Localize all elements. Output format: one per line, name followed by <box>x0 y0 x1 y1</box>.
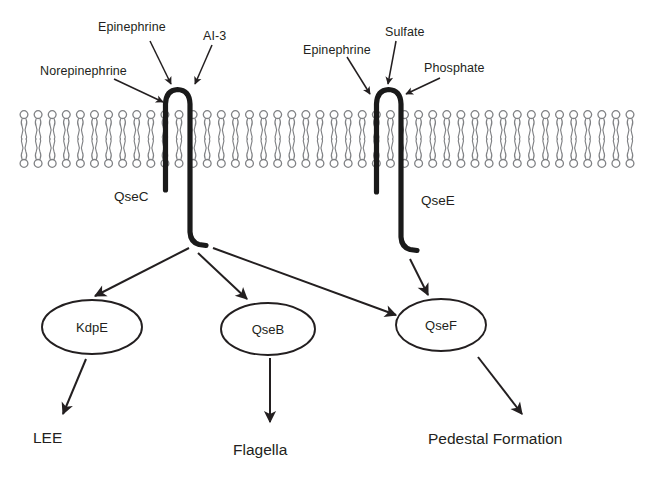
lipid-head-outer <box>274 111 282 140</box>
arrow-kdpe-to-lee <box>63 359 86 414</box>
lipid-head-inner <box>302 139 310 168</box>
lipid-head-inner <box>105 139 113 168</box>
lipid-head-inner <box>133 139 141 168</box>
output-label-lee: LEE <box>33 430 62 446</box>
lipid-head-inner <box>231 139 239 168</box>
output-label-flagella: Flagella <box>233 442 287 458</box>
ligand-label-norepinephrine: Norepinephrine <box>40 65 127 78</box>
lipid-head-outer <box>133 111 141 140</box>
lipid-head-outer <box>584 111 592 140</box>
lipid-head-inner <box>570 139 578 168</box>
lipid-head-inner <box>457 139 465 168</box>
lipid-head-outer <box>203 111 211 140</box>
lipid-head-inner <box>429 139 437 168</box>
lipid-head-inner <box>499 139 507 168</box>
lipid-head-outer <box>344 111 352 140</box>
node-label-kdpe: KdpE <box>42 321 142 334</box>
lipid-head-inner <box>91 139 99 168</box>
arrow-phosphate-to-qsee <box>406 78 440 94</box>
lipid-head-inner <box>387 139 395 168</box>
phospholipid-bilayer <box>20 111 634 168</box>
receptor-label-qsee: QseE <box>421 194 455 208</box>
lipid-head-inner <box>513 139 521 168</box>
lipid-head-outer <box>316 111 324 140</box>
lipid-head-inner <box>358 139 366 168</box>
figure-canvas: Norepinephrine Epinephrine AI-3 Epinephr… <box>0 0 650 479</box>
lipid-head-outer <box>513 111 521 140</box>
lipid-head-outer <box>358 111 366 140</box>
lipid-head-inner <box>542 139 550 168</box>
lipid-head-inner <box>34 139 42 168</box>
lipid-head-outer <box>302 111 310 140</box>
lipid-head-inner <box>415 139 423 168</box>
arrow-qsec-to-kdpe <box>95 248 189 296</box>
ligand-label-epinephrine-left: Epinephrine <box>98 21 166 34</box>
lipid-head-inner <box>485 139 493 168</box>
lipid-head-inner <box>48 139 56 168</box>
lipid-head-outer <box>626 111 634 140</box>
lipid-head-outer <box>260 111 268 140</box>
lipid-head-outer <box>598 111 606 140</box>
lipid-head-outer <box>570 111 578 140</box>
arrow-epinephrine-to-qsee <box>347 57 370 94</box>
lipid-head-inner <box>217 139 225 168</box>
lipid-head-inner <box>527 139 535 168</box>
receptor-qsee <box>377 90 418 251</box>
arrow-norepinephrine-to-qsec <box>114 79 163 102</box>
receptor-qsec <box>166 90 207 246</box>
lipid-head-inner <box>260 139 268 168</box>
ligand-label-ai-3: AI-3 <box>203 30 226 43</box>
lipid-head-inner <box>288 139 296 168</box>
lipid-head-inner <box>330 139 338 168</box>
arrow-qsee-to-qsef <box>410 259 428 295</box>
lipid-head-inner <box>246 139 254 168</box>
lipid-head-outer <box>175 111 183 140</box>
lipid-head-inner <box>316 139 324 168</box>
lipid-head-inner <box>626 139 634 168</box>
lipid-head-outer <box>499 111 507 140</box>
lipid-head-outer <box>387 111 395 140</box>
lipid-head-outer <box>457 111 465 140</box>
lipid-head-outer <box>76 111 84 140</box>
lipid-head-outer <box>246 111 254 140</box>
receptor-label-qsec: QseC <box>114 190 149 204</box>
arrow-qsef-to-pedestal <box>478 357 522 414</box>
ligand-label-phosphate: Phosphate <box>424 62 485 75</box>
lipid-head-outer <box>612 111 620 140</box>
lipid-head-inner <box>175 139 183 168</box>
lipid-head-inner <box>62 139 70 168</box>
lipid-head-inner <box>598 139 606 168</box>
arrow-qsec-to-qsef <box>213 248 396 315</box>
ligand-label-sulfate: Sulfate <box>385 26 425 39</box>
lipid-head-inner <box>612 139 620 168</box>
lipid-head-inner <box>76 139 84 168</box>
arrow-epinephrine-to-qsec <box>150 41 171 84</box>
lipid-head-inner <box>274 139 282 168</box>
lipid-head-outer <box>20 111 28 140</box>
lipid-head-inner <box>471 139 479 168</box>
lipid-head-outer <box>471 111 479 140</box>
lipid-head-inner <box>584 139 592 168</box>
lipid-head-outer <box>231 111 239 140</box>
node-label-qseb: QseB <box>221 323 315 336</box>
lipid-head-inner <box>147 139 155 168</box>
arrow-sulfate-to-qsee <box>388 41 396 84</box>
lipid-head-outer <box>217 111 225 140</box>
lipid-head-outer <box>48 111 56 140</box>
lipid-head-inner <box>344 139 352 168</box>
lipid-head-outer <box>330 111 338 140</box>
lipid-head-outer <box>119 111 127 140</box>
arrow-qsec-to-qseb <box>198 253 247 299</box>
lipid-head-outer <box>527 111 535 140</box>
output-label-pedestal-formation: Pedestal Formation <box>428 431 562 447</box>
lipid-head-outer <box>556 111 564 140</box>
lipid-head-outer <box>415 111 423 140</box>
lipid-head-inner <box>443 139 451 168</box>
lipid-head-inner <box>203 139 211 168</box>
ligand-label-epinephrine-right: Epinephrine <box>303 44 371 57</box>
node-label-qsef: QseF <box>396 319 486 332</box>
lipid-head-outer <box>105 111 113 140</box>
lipid-head-outer <box>62 111 70 140</box>
lipid-head-inner <box>20 139 28 168</box>
ligand-arrows <box>114 41 440 102</box>
